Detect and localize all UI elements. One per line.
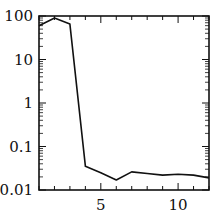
y-tick-label: 0.1: [9, 138, 33, 156]
plot-frame: [39, 16, 209, 190]
y-tick-label: 1: [23, 94, 33, 112]
y-tick-label: 100: [4, 7, 33, 25]
y-tick-label: 10: [14, 51, 33, 69]
x-tick-label: 10: [169, 196, 188, 214]
series-line: [39, 18, 209, 180]
x-tick-label: 5: [96, 196, 106, 214]
chart: 5100.010.1110100: [0, 0, 222, 216]
y-tick-label: 0.01: [0, 181, 33, 199]
